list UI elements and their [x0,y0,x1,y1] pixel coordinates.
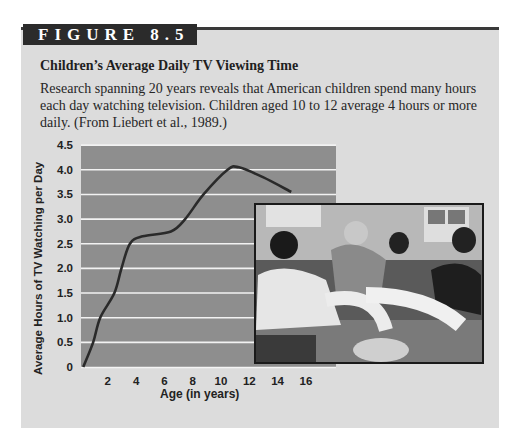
y-axis-label: Average Hours of TV Watching per Day [32,162,44,375]
x-tick-label: 2 [105,375,111,387]
x-tick-label: 8 [189,375,196,387]
x-tick-label: 6 [161,375,167,387]
y-tick-label: 4.0 [57,164,73,176]
x-tick-label: 12 [243,375,256,387]
y-tick-label: 2.0 [57,262,73,274]
x-axis-ticks: 246810121416 [105,375,313,387]
x-axis-label: Age (in years) [160,387,239,401]
photo-image [256,205,482,362]
y-tick-label: 1.5 [57,287,74,299]
y-tick-label: 4.5 [57,139,74,151]
y-tick-label: 0 [67,361,73,373]
y-tick-label: 3.0 [57,213,73,225]
y-tick-label: 1.0 [57,312,73,324]
y-axis-ticks: 00.51.01.52.02.53.03.54.04.5 [57,139,74,373]
y-tick-label: 0.5 [57,336,74,348]
y-tick-label: 3.5 [57,188,74,200]
x-tick-label: 14 [271,375,284,387]
x-tick-label: 4 [133,375,140,387]
x-tick-label: 10 [215,375,228,387]
photo-children-watching-tv [254,203,484,364]
x-tick-label: 16 [300,375,313,387]
y-tick-label: 2.5 [57,238,74,250]
